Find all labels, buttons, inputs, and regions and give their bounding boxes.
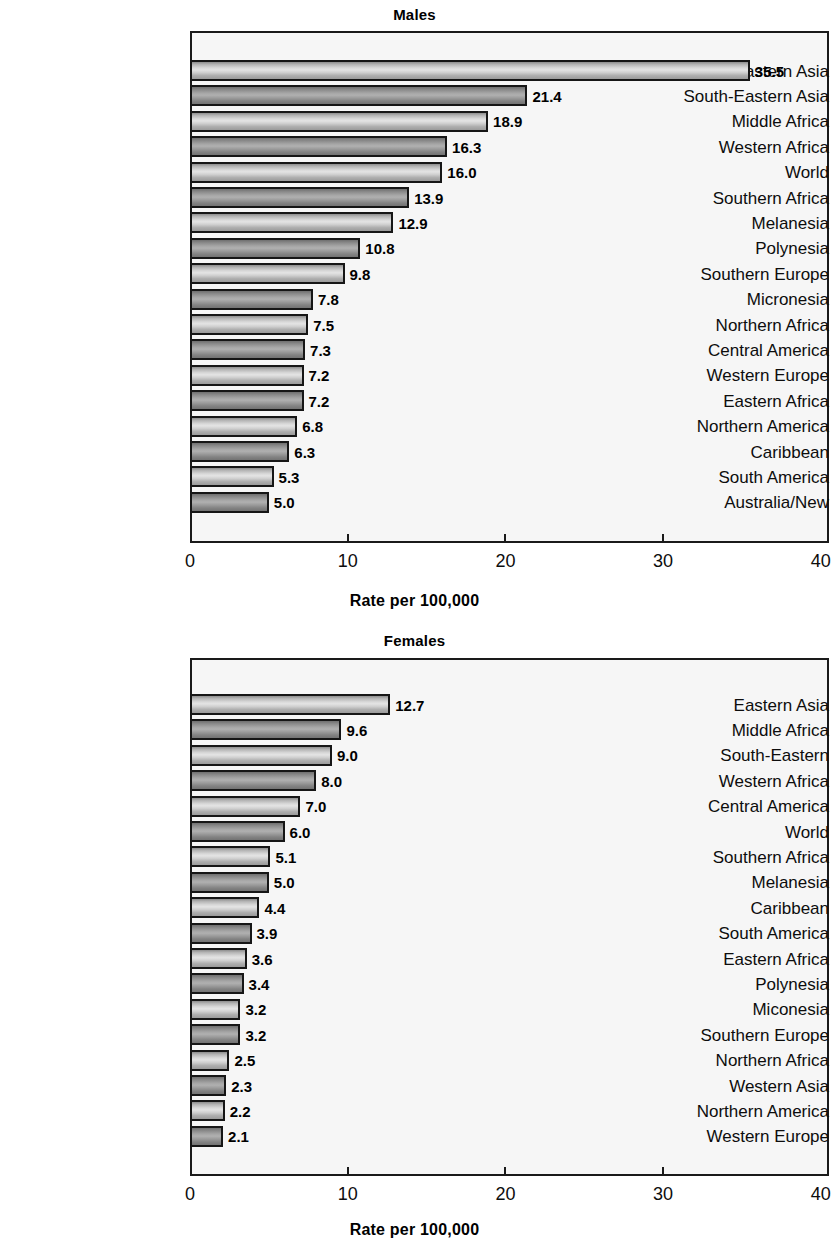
bar-value-label: 6.0 — [290, 824, 311, 839]
bar — [190, 492, 269, 513]
bar — [190, 872, 269, 893]
bar-row: South-Eastern Asia21.4 — [0, 85, 829, 106]
bar-row: Western Africa16.3 — [0, 136, 829, 157]
bar — [190, 796, 300, 817]
category-label: Southern Europe — [643, 1026, 829, 1043]
bar — [190, 1050, 229, 1071]
category-label: Western Africa — [643, 138, 829, 155]
category-label: World — [643, 823, 829, 840]
category-label: South-Eastern Asia — [643, 87, 829, 104]
category-label: Western Europe — [643, 1128, 829, 1145]
x-axis-tick-label: 10 — [338, 1185, 358, 1203]
bar — [190, 770, 316, 791]
bar — [190, 339, 305, 360]
x-axis-tick — [347, 534, 349, 543]
bar-value-label: 6.3 — [294, 444, 315, 459]
bar-value-label: 7.3 — [310, 342, 331, 357]
bar-row: Western Europe7.2 — [0, 365, 829, 386]
category-label: Eastern Asia — [643, 696, 829, 713]
bar-value-label: 16.3 — [452, 139, 481, 154]
category-label: Western Africa — [643, 772, 829, 789]
bar-value-label: 12.7 — [395, 697, 424, 712]
bar — [190, 466, 274, 487]
category-label: Eastern Africa — [643, 950, 829, 967]
bar-value-label: 6.8 — [302, 419, 323, 434]
category-label: Northern Africa — [643, 316, 829, 333]
x-axis-tick-label: 20 — [495, 1185, 515, 1203]
category-label: World — [643, 164, 829, 181]
bar — [190, 1024, 240, 1045]
bar-value-label: 2.2 — [230, 1103, 251, 1118]
bar-row: South-Eastern9.0 — [0, 745, 829, 766]
x-axis-tick — [662, 1167, 664, 1176]
bar-value-label: 5.1 — [275, 849, 296, 864]
bar — [190, 85, 527, 106]
category-label: Western Europe — [643, 367, 829, 384]
category-label: Polynesia — [643, 975, 829, 992]
category-label: Polynesia — [643, 240, 829, 257]
bar-row: Eastern Africa3.6 — [0, 948, 829, 969]
bar-value-label: 2.1 — [228, 1129, 249, 1144]
bar — [190, 289, 313, 310]
bar — [190, 314, 308, 335]
bar-row: Caribbean6.3 — [0, 441, 829, 462]
bar — [190, 187, 409, 208]
bar-value-label: 8.0 — [321, 773, 342, 788]
bar-row: Central America7.3 — [0, 339, 829, 360]
bar — [190, 1075, 226, 1096]
bar-value-label: 7.2 — [309, 368, 330, 383]
bar — [190, 365, 304, 386]
category-label: Northern America — [643, 418, 829, 435]
bar-value-label: 2.3 — [231, 1078, 252, 1093]
bar-row: Australia/New5.0 — [0, 492, 829, 513]
bar-value-label: 21.4 — [532, 88, 561, 103]
bar-row: World16.0 — [0, 162, 829, 183]
category-label: Melanesia — [643, 874, 829, 891]
bar-value-label: 5.0 — [274, 875, 295, 890]
category-label: Eastern Africa — [643, 392, 829, 409]
bar — [190, 973, 244, 994]
category-label: Miconesia — [643, 1001, 829, 1018]
category-label: Southern Europe — [643, 265, 829, 282]
x-axis-tick-label: 30 — [653, 1185, 673, 1203]
category-label: Micronesia — [643, 291, 829, 308]
bar — [190, 212, 393, 233]
bar — [190, 999, 240, 1020]
category-label: South America — [643, 925, 829, 942]
bar-value-label: 3.9 — [257, 926, 278, 941]
category-label: Northern Africa — [643, 1052, 829, 1069]
bar-value-label: 7.0 — [305, 799, 326, 814]
bar — [190, 694, 390, 715]
bar-value-label: 7.2 — [309, 393, 330, 408]
category-label: Southern Africa — [643, 189, 829, 206]
bar-value-label: 16.0 — [447, 165, 476, 180]
category-label: Southern Africa — [643, 848, 829, 865]
category-label: Caribbean — [643, 899, 829, 916]
category-label: Caribbean — [643, 443, 829, 460]
bar-row: Eastern Asia35.5 — [0, 60, 829, 81]
x-axis-tick-label: 0 — [185, 552, 195, 570]
bar-value-label: 7.5 — [313, 317, 334, 332]
bar-row: South America5.3 — [0, 466, 829, 487]
bar-row: Western Europe2.1 — [0, 1126, 829, 1147]
bar-row: Northern Africa7.5 — [0, 314, 829, 335]
bar-row: Northern Africa2.5 — [0, 1050, 829, 1071]
x-axis-tick — [662, 534, 664, 543]
bar-row: Middle Africa18.9 — [0, 111, 829, 132]
bar-value-label: 18.9 — [493, 114, 522, 129]
bar-value-label: 2.5 — [234, 1053, 255, 1068]
bar-row: Southern Europe9.8 — [0, 263, 829, 284]
bar-value-label: 9.6 — [346, 722, 367, 737]
bar-row: Southern Africa5.1 — [0, 846, 829, 867]
category-label: South-Eastern — [643, 747, 829, 764]
chart-title-males: Males — [0, 6, 829, 23]
bar — [190, 1100, 225, 1121]
x-axis-tick-label: 40 — [811, 552, 831, 570]
bar — [190, 846, 270, 867]
bar-value-label: 7.8 — [318, 292, 339, 307]
bar-value-label: 35.5 — [755, 63, 784, 78]
bar-value-label: 12.9 — [398, 215, 427, 230]
x-axis-tick — [504, 1167, 506, 1176]
x-axis-tick — [504, 534, 506, 543]
bar-value-label: 5.0 — [274, 495, 295, 510]
